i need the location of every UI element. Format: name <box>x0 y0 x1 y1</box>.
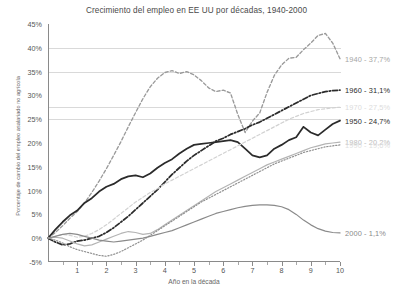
chart-root: Crecimiento del empleo en EE UU por déca… <box>0 0 393 299</box>
series-line-1970 <box>48 107 340 238</box>
x-tick-label: 6 <box>221 266 225 275</box>
x-tick-label: 5 <box>192 266 196 275</box>
x-tick-label: 9 <box>309 266 313 275</box>
x-tick-minor <box>325 262 326 265</box>
end-label-1990: 1990 - 19,6% <box>345 140 390 149</box>
series-layer <box>48 24 340 262</box>
x-tick-label: 7 <box>250 266 254 275</box>
series-line-1990 <box>48 145 340 256</box>
x-tick-label: 8 <box>280 266 284 275</box>
x-tick-minor <box>179 262 180 265</box>
x-tick-minor <box>296 262 297 265</box>
series-line-1980 <box>48 142 340 246</box>
x-tick-label: 10 <box>336 266 344 275</box>
x-tick-label: 4 <box>163 266 167 275</box>
end-label-2000: 2000 - 1,1% <box>345 228 386 237</box>
y-tick-label: 25% <box>4 115 42 124</box>
x-tick-minor <box>150 262 151 265</box>
y-tick-label: 10% <box>4 186 42 195</box>
x-tick-minor <box>238 262 239 265</box>
series-line-1950 <box>48 121 340 239</box>
y-tick-label: 40% <box>4 43 42 52</box>
y-tick-label: 30% <box>4 91 42 100</box>
x-tick-minor <box>267 262 268 265</box>
y-tick-label: 20% <box>4 139 42 148</box>
end-label-1940: 1940 - 37,7% <box>345 54 390 63</box>
y-tick-label: 0% <box>4 234 42 243</box>
x-tick-minor <box>209 262 210 265</box>
x-tick-minor <box>63 262 64 265</box>
y-tick-label: 5% <box>4 210 42 219</box>
x-tick-minor <box>92 262 93 265</box>
end-label-1960: 1960 - 31,1% <box>345 86 390 95</box>
end-label-1970: 1970 - 27,5% <box>345 103 390 112</box>
y-tick-label: 15% <box>4 162 42 171</box>
end-label-1950: 1950 - 24,7% <box>345 116 390 125</box>
x-tick-label: 1 <box>75 266 79 275</box>
y-tick-label: 45% <box>4 20 42 29</box>
x-tick-minor <box>121 262 122 265</box>
x-axis-title: Año en la década <box>48 278 340 285</box>
x-tick-label: 2 <box>104 266 108 275</box>
series-line-2000 <box>48 205 340 242</box>
y-tick-label: 35% <box>4 67 42 76</box>
x-tick-label: 3 <box>134 266 138 275</box>
